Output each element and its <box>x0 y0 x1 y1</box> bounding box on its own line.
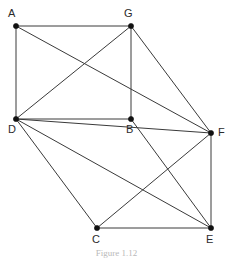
vertex-label-b: B <box>126 124 133 135</box>
graph-edge-d-c <box>16 119 97 228</box>
vertex-label-a: A <box>8 8 15 19</box>
graph-diagram <box>0 0 233 258</box>
graph-edge-g-f <box>131 26 211 133</box>
graph-vertex-d[interactable] <box>13 116 18 121</box>
graph-vertex-g[interactable] <box>128 23 133 28</box>
vertex-label-f: F <box>218 127 225 138</box>
graph-vertex-c[interactable] <box>94 225 99 230</box>
vertex-label-d: D <box>8 124 16 135</box>
vertex-layer <box>13 23 213 230</box>
graph-vertex-b[interactable] <box>128 116 133 121</box>
vertex-label-c: C <box>92 234 100 245</box>
figure-container: AGDBFCE Figure 1.12 <box>0 0 233 258</box>
vertex-label-g: G <box>124 8 133 19</box>
graph-vertex-f[interactable] <box>208 130 213 135</box>
graph-vertex-e[interactable] <box>208 225 213 230</box>
graph-edge-g-d <box>16 26 131 119</box>
graph-edge-c-f <box>97 133 211 228</box>
vertex-label-e: E <box>206 234 213 245</box>
graph-edge-a-f <box>16 26 211 133</box>
figure-caption: Figure 1.12 <box>0 249 233 258</box>
graph-edge-d-f <box>16 119 211 133</box>
edge-layer <box>16 26 211 228</box>
graph-vertex-a[interactable] <box>13 23 18 28</box>
graph-edge-d-e <box>16 119 211 228</box>
graph-edge-b-e <box>131 119 211 228</box>
